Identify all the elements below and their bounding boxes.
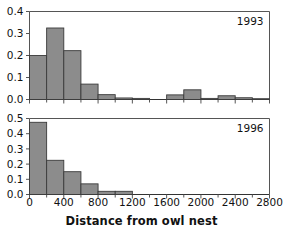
- x-axis-tick-label: 2400: [222, 196, 249, 208]
- histogram-bar: [184, 90, 201, 100]
- histogram-bar: [30, 56, 47, 100]
- y-axis-tick-label: 0.3: [7, 27, 24, 39]
- histogram-bar: [252, 99, 269, 100]
- histogram-bar: [64, 172, 81, 195]
- histogram-bar: [81, 84, 98, 99]
- x-axis-tick-label: 1200: [119, 196, 146, 208]
- histogram-bar: [115, 98, 132, 100]
- histogram-bar: [98, 95, 115, 100]
- y-axis-tick-label: 0.1: [7, 71, 24, 83]
- histogram-bar: [47, 28, 64, 100]
- x-axis-tick-label: 2800: [256, 196, 283, 208]
- histogram-bar: [81, 184, 98, 195]
- bar-series: [30, 122, 133, 194]
- y-axis-tick-label: 0.2: [7, 158, 24, 170]
- histogram-bar: [47, 160, 64, 194]
- y-axis-tick-label: 0.4: [7, 127, 24, 139]
- x-axis-tick-labels: 040080012001600200024002800: [0, 196, 283, 212]
- histogram-1993: 0.00.10.20.30.41993: [0, 0, 283, 110]
- chart-panel-1993: 0.00.10.20.30.41993: [0, 0, 283, 110]
- chart-panel-1996: 0.00.10.20.30.40.51996: [0, 108, 283, 203]
- owl-nest-distance-figure: 0.00.10.20.30.41993 0.00.10.20.30.40.519…: [0, 0, 283, 241]
- x-axis-tick-label: 1600: [153, 196, 180, 208]
- bar-series: [30, 28, 270, 100]
- x-axis-tick-label: 2000: [188, 196, 215, 208]
- histogram-bar: [115, 191, 132, 194]
- x-axis-tick-label: 800: [88, 196, 108, 208]
- x-axis-tick-label: 0: [26, 196, 33, 208]
- histogram-bar: [132, 98, 149, 99]
- histogram-1996: 0.00.10.20.30.40.51996: [0, 108, 283, 203]
- histogram-bar: [235, 98, 252, 100]
- histogram-bar: [64, 51, 81, 100]
- panel-year-label: 1993: [237, 15, 264, 27]
- y-axis-tick-label: 0.5: [7, 112, 24, 124]
- x-axis-tick-label: 400: [54, 196, 74, 208]
- y-axis-ticks: 0.00.10.20.30.40.5: [7, 112, 30, 200]
- y-axis-ticks: 0.00.10.20.30.4: [7, 5, 30, 105]
- y-axis-tick-label: 0.0: [7, 93, 24, 105]
- y-axis-tick-label: 0.1: [7, 173, 24, 185]
- histogram-bar: [167, 95, 184, 100]
- histogram-bar: [201, 98, 218, 99]
- histogram-bar: [30, 122, 47, 194]
- histogram-bar: [218, 96, 235, 100]
- x-axis-title: Distance from owl nest: [0, 214, 283, 228]
- y-axis-tick-label: 0.3: [7, 143, 24, 155]
- panel-year-label: 1996: [237, 122, 264, 134]
- y-axis-tick-label: 0.2: [7, 49, 24, 61]
- histogram-bar: [98, 191, 115, 194]
- y-axis-tick-label: 0.4: [7, 5, 24, 17]
